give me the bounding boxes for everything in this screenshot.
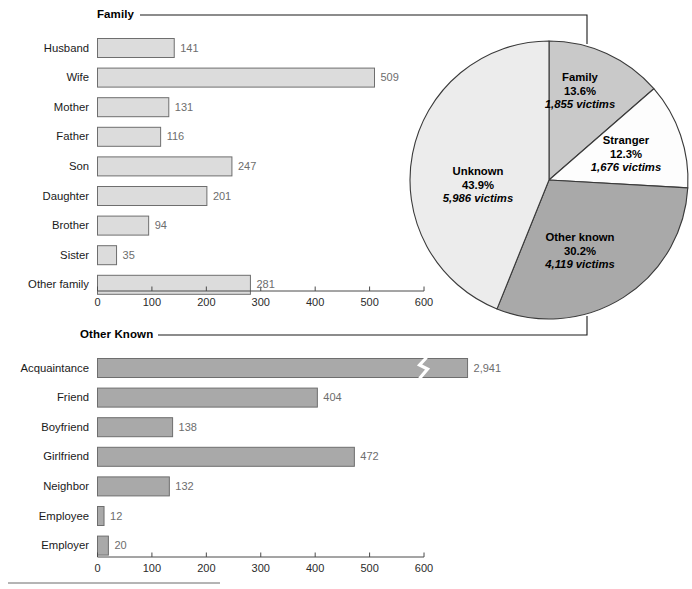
bar-value-label: 132 (175, 480, 193, 492)
other-known-bar-chart (98, 316, 588, 557)
category-label: Other family (0, 278, 89, 290)
pie-slice-name: Unknown (418, 165, 538, 179)
x-axis (98, 553, 425, 558)
pie-slice-percent: 43.9% (418, 179, 538, 193)
bar (98, 127, 161, 146)
x-tick-label: 500 (340, 562, 400, 574)
pie-slice-label: Unknown43.9%5,986 victims (418, 165, 538, 206)
category-label: Sister (0, 249, 89, 261)
bar (98, 98, 169, 117)
bar (98, 157, 232, 176)
category-label: Employer (0, 539, 89, 551)
x-tick-label: 500 (340, 296, 400, 308)
bar (98, 187, 207, 206)
bar (98, 418, 173, 437)
category-label: Wife (0, 71, 89, 83)
pie-slice-percent: 30.2% (519, 245, 641, 259)
x-tick-label: 400 (285, 562, 345, 574)
bar (98, 477, 170, 496)
bar-value-label: 94 (155, 219, 167, 231)
category-label: Husband (0, 42, 89, 54)
category-label: Girlfriend (0, 450, 89, 462)
x-tick-label: 600 (394, 562, 454, 574)
bar-value-label: 141 (180, 42, 198, 54)
x-tick-label: 100 (122, 562, 182, 574)
bar (98, 359, 468, 378)
bar-value-label: 2,941 (474, 362, 502, 374)
category-label: Father (0, 130, 89, 142)
pie-slice-label: Family13.6%1,855 victims (521, 71, 639, 112)
x-tick-label: 300 (231, 562, 291, 574)
bar-value-label: 131 (175, 101, 193, 113)
pie-slice-victims: 1,855 victims (521, 98, 639, 112)
bar-value-label: 404 (323, 391, 341, 403)
pie-slice-percent: 12.3% (567, 148, 685, 162)
bar-value-label: 20 (114, 539, 126, 551)
category-label: Acquaintance (0, 362, 89, 374)
other-known-connector-line (158, 316, 587, 335)
category-label: Neighbor (0, 480, 89, 492)
bar (98, 536, 109, 555)
x-tick-label: 300 (231, 296, 291, 308)
pie-slice-name: Other known (519, 231, 641, 245)
x-tick-label: 200 (176, 296, 236, 308)
pie-slice-name: Family (521, 71, 639, 85)
bar-value-label: 281 (256, 278, 274, 290)
bar-value-label: 138 (179, 421, 197, 433)
pie-slice-victims: 5,986 victims (418, 192, 538, 206)
x-tick-label: 600 (394, 296, 454, 308)
bar-value-label: 247 (238, 160, 256, 172)
x-tick-label: 400 (285, 296, 345, 308)
x-tick-label: 0 (68, 562, 128, 574)
other-known-panel-title: Other Known (80, 328, 153, 340)
bar (98, 507, 105, 526)
x-tick-label: 200 (176, 562, 236, 574)
bar-value-label: 509 (380, 71, 398, 83)
family-connector-line (140, 15, 587, 44)
pie-slice-percent: 13.6% (521, 85, 639, 99)
category-label: Employee (0, 510, 89, 522)
category-label: Friend (0, 391, 89, 403)
bar-value-label: 472 (360, 450, 378, 462)
bar (98, 246, 117, 265)
category-label: Daughter (0, 190, 89, 202)
family-panel-title: Family (97, 8, 134, 20)
category-label: Boyfriend (0, 421, 89, 433)
pie-slice-label: Other known30.2%4,119 victims (519, 231, 641, 272)
bar (98, 39, 175, 58)
x-tick-label: 0 (68, 296, 128, 308)
pie-slice-victims: 4,119 victims (519, 258, 641, 272)
bar (98, 447, 355, 466)
pie-slice-name: Stranger (567, 134, 685, 148)
category-label: Brother (0, 219, 89, 231)
bar (98, 388, 318, 407)
figure-root: Family13.6%1,855 victimsStranger12.3%1,6… (0, 0, 692, 589)
bar-value-label: 12 (110, 510, 122, 522)
pie-slice-label: Stranger12.3%1,676 victims (567, 134, 685, 175)
category-label: Mother (0, 101, 89, 113)
bar-value-label: 201 (213, 190, 231, 202)
bar-value-label: 35 (123, 249, 135, 261)
x-tick-label: 100 (122, 296, 182, 308)
category-label: Son (0, 160, 89, 172)
bar (98, 216, 149, 235)
pie-slice-victims: 1,676 victims (567, 161, 685, 175)
bar (98, 68, 375, 87)
bar-value-label: 116 (167, 130, 185, 142)
